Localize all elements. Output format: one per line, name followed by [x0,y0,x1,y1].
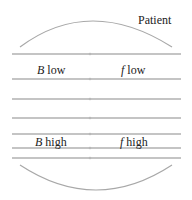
b-high-text: high [42,135,66,149]
f-high-label: f high [120,136,148,148]
patient-bottom-arc [20,165,172,190]
diagram-canvas [0,0,192,200]
patient-label: Patient [138,14,171,26]
b-high-label: B high [35,136,67,148]
f-high-text: high [123,135,147,149]
b-low-label: B low [37,64,65,76]
f-low-text: low [124,63,145,77]
f-low-label: f low [121,64,145,76]
b-low-text: low [44,63,65,77]
center-markers [89,53,92,160]
